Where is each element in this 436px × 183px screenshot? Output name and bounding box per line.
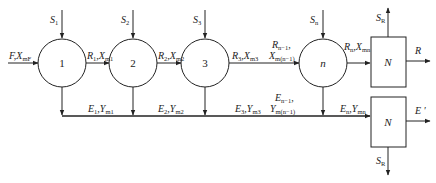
recovery-raffinate: N [371, 37, 406, 87]
solvent-label-3: S3 [193, 14, 201, 26]
stage-3-label: 3 [202, 57, 208, 69]
extract-label-2: E2,Ym2 [157, 103, 184, 115]
extraction-flow-diagram: 1 2 3 n S1 S2 S3 Sn F,XmF R1,Xm1 R2,Xm2 … [0, 0, 436, 183]
raffinate-label-n: Rn,Xmn [343, 41, 371, 53]
extract-label-1: E1,Ym1 [87, 103, 114, 115]
stage-2: 2 [109, 39, 157, 87]
extract-label-3: E3,Ym3 [234, 103, 261, 115]
raffinate-label-3: R3,Xm3 [231, 50, 258, 62]
stage-1: 1 [38, 39, 86, 87]
recovery-extract-label: N [383, 116, 392, 128]
stage-3: 3 [181, 39, 229, 87]
extract-label-n-1-var: Ym(n−1) [270, 103, 295, 116]
solvent-recovery-bottom-label: SR [376, 155, 386, 167]
extract-label-n: En,Ymn [339, 103, 366, 115]
recovery-raffinate-label: N [383, 56, 392, 68]
stage-2-label: 2 [130, 57, 136, 69]
solvent-label-n: Sn [310, 14, 319, 26]
recovery-extract: N [371, 97, 406, 147]
solvent-recovery-top-label: SR [376, 12, 386, 24]
raffinate-label-2: R2,Xm2 [157, 50, 184, 62]
raffinate-label-1: R1,Xm1 [86, 50, 113, 62]
solvent-label-1: S1 [50, 14, 58, 26]
product-r-label: R [414, 45, 421, 56]
product-e-label: E ′ [414, 105, 427, 116]
feed-label: F,XmF [8, 50, 31, 62]
stage-n: n [299, 39, 347, 87]
extract-label-n-1-main: En−1, [274, 92, 294, 104]
solvent-label-2: S2 [121, 14, 129, 26]
stage-1-label: 1 [59, 57, 65, 69]
stage-n-label: n [320, 57, 326, 69]
raffinate-label-n-1-var: Xm(n−1) [268, 50, 295, 63]
